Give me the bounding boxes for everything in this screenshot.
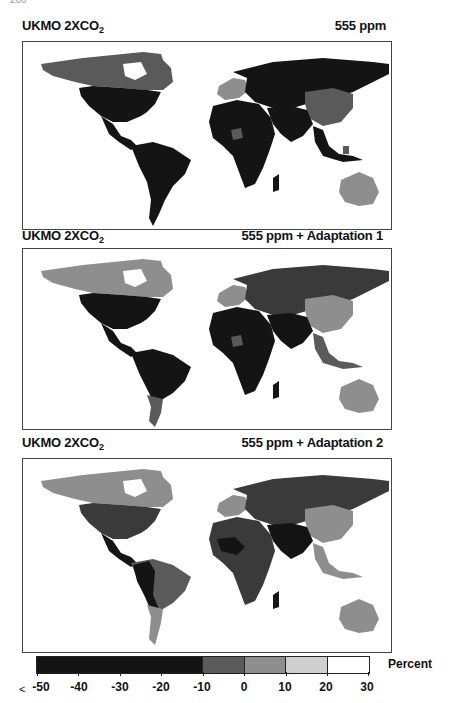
legend-tick-label: -10 xyxy=(193,680,210,694)
legend-bin-20-30 xyxy=(328,657,370,673)
panel-1-map xyxy=(22,41,392,230)
panel-3-model-title: UKMO 2XCO2 xyxy=(22,435,104,452)
page-number: 200 xyxy=(10,0,27,5)
legend-bin-lt-minus-10 xyxy=(37,657,203,673)
panel-2-scenario: 555 ppm + Adaptation 1 xyxy=(242,228,383,243)
legend-tick-label: 0 xyxy=(241,680,248,694)
legend-bin-0-10 xyxy=(245,657,287,673)
world-map-3 xyxy=(23,459,391,652)
legend-tick xyxy=(161,672,162,676)
world-map-1 xyxy=(23,42,391,229)
panel-3-model-subscript: 2 xyxy=(99,442,104,452)
legend-tick xyxy=(244,672,245,676)
legend-tick-label: -20 xyxy=(152,680,169,694)
legend-tick xyxy=(327,672,328,676)
panel-2-model-subscript: 2 xyxy=(99,235,104,245)
world-map-2 xyxy=(23,249,391,429)
legend-tick xyxy=(203,672,204,676)
panel-3-map xyxy=(22,458,392,653)
legend-tick xyxy=(78,672,79,676)
legend-tick-label: -30 xyxy=(111,680,128,694)
panel-3-scenario: 555 ppm + Adaptation 2 xyxy=(242,435,383,450)
legend-tick-label: -50 xyxy=(32,680,49,694)
legend-tick xyxy=(368,672,369,676)
legend-tick-label: 30 xyxy=(360,680,373,694)
legend-less-than: < xyxy=(19,683,25,695)
legend-bin-minus-10-0 xyxy=(203,657,245,673)
panel-1-model: UKMO 2XCO xyxy=(22,18,99,33)
panel-1-model-subscript: 2 xyxy=(99,25,104,35)
legend-tick xyxy=(120,672,121,676)
panel-1-model-title: UKMO 2XCO2 xyxy=(22,18,104,35)
legend-tick-label: 10 xyxy=(278,680,291,694)
legend-tick-label: -40 xyxy=(70,680,87,694)
panel-2-model-title: UKMO 2XCO2 xyxy=(22,228,104,245)
legend-tick xyxy=(37,672,38,676)
panel-1-scenario: 555 ppm xyxy=(335,18,386,33)
panel-2-model: UKMO 2XCO xyxy=(22,228,99,243)
legend-tick-label: 20 xyxy=(319,680,332,694)
legend-bin-10-20 xyxy=(286,657,328,673)
panel-2-map xyxy=(22,248,392,430)
legend-unit-label: Percent xyxy=(388,657,432,671)
panel-3-model: UKMO 2XCO xyxy=(22,435,99,450)
legend-tick xyxy=(286,672,287,676)
